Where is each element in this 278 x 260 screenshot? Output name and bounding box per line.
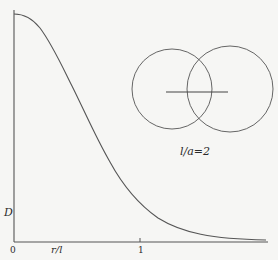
x-tick-label-0: 0 <box>10 245 16 255</box>
figure: D r/l 0 1 l/a=2 <box>0 0 278 260</box>
x-axis-label: r/l <box>51 244 62 255</box>
inset-caption: l/a=2 <box>180 145 210 158</box>
inset-right-circle <box>187 46 273 132</box>
density-curve <box>14 14 266 240</box>
y-axis-label: D <box>4 206 13 219</box>
x-tick-label-1: 1 <box>138 245 144 255</box>
inset-left-circle <box>132 49 212 129</box>
plot-canvas <box>0 0 278 260</box>
